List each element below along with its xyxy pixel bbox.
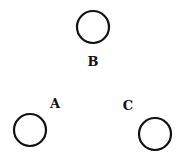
label-c: C (123, 98, 133, 113)
circle-b (77, 11, 109, 43)
circle-c (139, 118, 171, 150)
label-b: B (88, 54, 99, 69)
label-a: A (49, 96, 61, 111)
diagram-canvas: B A C (0, 0, 181, 156)
circle-a (14, 114, 46, 146)
